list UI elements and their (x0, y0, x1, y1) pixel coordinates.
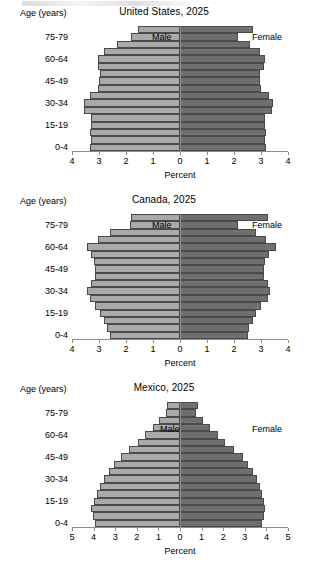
male-half (72, 317, 180, 324)
bar-female (180, 85, 261, 92)
x-axis-tick (261, 152, 262, 155)
bar-male (98, 63, 180, 70)
legend-label-female-mexico: Female (252, 424, 282, 434)
female-half (180, 483, 288, 490)
x-axis-tick-labels-united-states: 432101234 (72, 156, 288, 168)
bar-female (180, 55, 265, 62)
bar-male (91, 136, 180, 143)
bar-male (138, 439, 180, 446)
female-half (180, 258, 288, 265)
male-half (72, 77, 180, 84)
bar-female (180, 129, 266, 136)
x-axis-tick-label: 3 (96, 156, 101, 166)
y-axis-tick-label: 15-19 (45, 308, 68, 318)
x-axis-tick (234, 340, 235, 343)
bar-female (180, 402, 198, 409)
bar-female (180, 409, 196, 416)
x-axis-tick (261, 340, 262, 343)
center-axis-line (180, 214, 181, 340)
x-axis-tick-label: 3 (258, 344, 263, 354)
female-half (180, 70, 288, 77)
bar-male (94, 498, 180, 505)
male-half (72, 409, 180, 416)
plot-area-mexico: 54321012345MaleFemale (72, 402, 288, 528)
x-axis-tick (180, 528, 181, 531)
bar-male (110, 332, 180, 339)
male-half (72, 475, 180, 482)
x-axis-tick (288, 152, 289, 155)
legend-label-male-canada: Male (152, 220, 172, 230)
male-half (72, 48, 180, 55)
bar-female (180, 258, 265, 265)
female-half (180, 310, 288, 317)
male-half (72, 324, 180, 331)
bar-male (87, 287, 180, 294)
bar-male (93, 512, 180, 519)
x-axis-tick (126, 152, 127, 155)
bar-male (121, 453, 180, 460)
male-half (72, 99, 180, 106)
male-half (72, 236, 180, 243)
bar-male (107, 324, 180, 331)
female-half (180, 77, 288, 84)
male-half (72, 136, 180, 143)
x-axis-tick (234, 152, 235, 155)
x-axis-tick (223, 528, 224, 531)
bar-male (167, 402, 180, 409)
bar-female (180, 332, 248, 339)
x-axis-tick-label: 2 (231, 344, 236, 354)
bar-female (180, 33, 238, 40)
y-axis-tick-label: 45-49 (45, 264, 68, 274)
female-half (180, 453, 288, 460)
y-axis-title-mexico: Age (years) (20, 384, 67, 394)
male-half (72, 55, 180, 62)
male-half (72, 439, 180, 446)
y-axis-tick-label: 75-79 (45, 408, 68, 418)
x-axis-tick-label: 3 (242, 532, 247, 542)
x-axis-tick-labels-mexico: 54321012345 (72, 532, 288, 544)
x-axis-tick (288, 340, 289, 343)
bar-male (99, 77, 180, 84)
bar-female (180, 236, 266, 243)
bar-male (84, 107, 180, 114)
bar-male (98, 55, 180, 62)
bar-female (180, 310, 256, 317)
chart-panel-united-states: United States, 2025Age (years)432101234M… (0, 0, 328, 188)
y-axis-tick-label: 15-19 (45, 120, 68, 130)
x-axis-tick-label: 4 (285, 344, 290, 354)
bar-female (180, 265, 264, 272)
bar-male (97, 490, 180, 497)
x-axis-tick-label: 4 (69, 156, 74, 166)
bar-female (180, 63, 264, 70)
female-half (180, 63, 288, 70)
bar-male (166, 409, 180, 416)
y-axis-labels-united-states: 0-415-1930-3445-4960-6475-79 (0, 26, 68, 152)
bar-male (98, 236, 180, 243)
bar-female (180, 221, 238, 228)
female-half (180, 273, 288, 280)
x-axis-tick-label: 0 (177, 532, 182, 542)
x-axis-tick-label: 3 (113, 532, 118, 542)
bar-female (180, 107, 272, 114)
x-axis-tick-label: 3 (96, 344, 101, 354)
bar-female (180, 114, 265, 121)
bar-female (180, 453, 243, 460)
bar-male (91, 505, 180, 512)
female-half (180, 317, 288, 324)
female-half (180, 402, 288, 409)
x-axis-title-canada: Percent (72, 358, 288, 368)
y-axis-tick-label: 75-79 (45, 220, 68, 230)
female-half (180, 468, 288, 475)
bar-male (91, 114, 180, 121)
bar-female (180, 77, 260, 84)
female-half (180, 295, 288, 302)
y-axis-tick-label: 30-34 (45, 98, 68, 108)
plot-area-united-states: 432101234MaleFemale (72, 26, 288, 152)
male-half (72, 280, 180, 287)
male-half (72, 498, 180, 505)
x-axis-tick-label: 2 (231, 156, 236, 166)
bar-male (90, 144, 180, 151)
male-half (72, 468, 180, 475)
center-axis-line (180, 402, 181, 528)
center-axis-line (180, 26, 181, 152)
